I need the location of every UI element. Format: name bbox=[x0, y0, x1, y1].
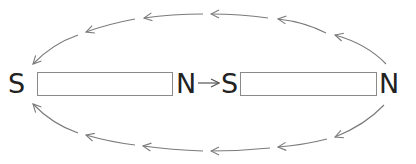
magnet-diagram: S N S N bbox=[0, 0, 416, 164]
top-field-loop bbox=[33, 14, 386, 64]
top-loop-segment-1-arrow-icon bbox=[335, 35, 386, 64]
bottom-loop-segment-4-arrow-icon bbox=[143, 146, 203, 151]
bottom-loop-segment-2-arrow-icon bbox=[278, 139, 327, 147]
left-magnet-north-label: N bbox=[176, 70, 196, 97]
top-loop-segment-2-arrow-icon bbox=[278, 19, 326, 33]
top-loop-segment-3-arrow-icon bbox=[211, 14, 268, 18]
left-magnet-body bbox=[37, 72, 173, 96]
bottom-loop-segment-5-arrow-icon bbox=[86, 135, 135, 145]
right-magnet-body bbox=[240, 72, 377, 96]
bottom-loop-segment-3-arrow-icon bbox=[211, 148, 270, 151]
right-magnet-north-label: N bbox=[379, 70, 399, 97]
bottom-field-loop bbox=[33, 104, 384, 151]
left-magnet-south-label: S bbox=[8, 70, 25, 97]
top-loop-segment-4-arrow-icon bbox=[144, 14, 203, 18]
top-loop-segment-6-arrow-icon bbox=[33, 35, 78, 64]
bottom-loop-segment-1-arrow-icon bbox=[335, 105, 384, 137]
right-magnet-south-label: S bbox=[221, 70, 238, 97]
top-loop-segment-5-arrow-icon bbox=[86, 19, 135, 32]
bottom-loop-segment-6-arrow-icon bbox=[33, 104, 78, 133]
